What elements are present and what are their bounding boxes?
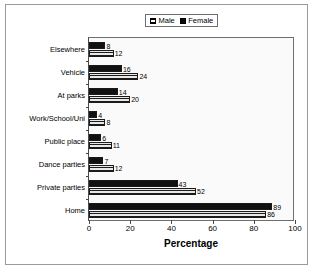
- y-axis-tick: [86, 84, 89, 85]
- bar-value-female: 89: [273, 203, 281, 210]
- chart-category-row: Work/School/Uni48: [89, 107, 293, 130]
- bar-male: 12: [89, 165, 114, 172]
- bar-female: 7: [89, 157, 103, 164]
- bar-male: 12: [89, 50, 114, 57]
- bar-value-male: 11: [113, 142, 120, 149]
- legend-label-male: Male: [159, 17, 175, 25]
- legend-item-male: Male: [150, 17, 175, 25]
- bar-female: 89: [89, 203, 272, 210]
- bar-female: 43: [89, 180, 178, 187]
- bar-male: 24: [89, 73, 138, 80]
- bar-female: 16: [89, 65, 122, 72]
- x-axis-tick-label: 20: [126, 225, 135, 233]
- bar-value-male: 8: [106, 119, 110, 126]
- chart-category-row: Dance parties712: [89, 153, 293, 176]
- bar-male: 20: [89, 96, 130, 103]
- bar-value-female: 7: [104, 157, 108, 164]
- legend-label-female: Female: [188, 17, 213, 25]
- bar-value-female: 8: [106, 42, 110, 49]
- bar-male: 8: [89, 119, 105, 126]
- chart-category-row: Private parties4352: [89, 176, 293, 199]
- chart-category-row: Home8986: [89, 199, 293, 222]
- bar-female: 8: [89, 42, 105, 49]
- category-label: Dance parties: [39, 161, 85, 169]
- chart-category-row: Elsewhere812: [89, 38, 293, 61]
- category-label: Public place: [45, 138, 85, 146]
- x-axis-tick-label: 100: [288, 225, 301, 233]
- x-axis-title: Percentage: [88, 239, 294, 249]
- bar-male: 52: [89, 188, 196, 195]
- legend-swatch-female-icon: [180, 18, 186, 24]
- bar-female: 4: [89, 111, 97, 118]
- chart-category-row: At parks1420: [89, 84, 293, 107]
- bar-female: 14: [89, 88, 118, 95]
- bar-value-female: 6: [102, 134, 106, 141]
- category-label: Vehicle: [61, 69, 85, 77]
- chart-legend: Male Female: [145, 14, 218, 27]
- y-axis-tick: [86, 176, 89, 177]
- x-axis-tick-label: 80: [249, 225, 258, 233]
- legend-item-female: Female: [180, 17, 214, 25]
- chart-category-row: Vehicle1624: [89, 61, 293, 84]
- bar-value-male: 86: [267, 211, 275, 218]
- x-axis-tick-label: 40: [167, 225, 176, 233]
- y-axis-tick: [86, 153, 89, 154]
- y-axis-tick: [86, 107, 89, 108]
- bar-value-male: 52: [197, 188, 205, 195]
- bar-value-male: 12: [115, 50, 123, 57]
- x-axis-tick-label: 0: [87, 225, 91, 233]
- plot-inner: Elsewhere812Vehicle1624At parks1420Work/…: [89, 38, 293, 220]
- bar-female: 6: [89, 134, 101, 141]
- category-label: Home: [65, 207, 85, 215]
- bar-value-female: 43: [179, 180, 187, 187]
- bar-value-male: 24: [139, 73, 147, 80]
- y-axis-tick: [86, 61, 89, 62]
- bar-male: 86: [89, 211, 266, 218]
- y-axis-tick: [86, 199, 89, 200]
- bar-value-male: 12: [115, 165, 123, 172]
- chart-frame: Male Female Elsewhere812Vehicle1624At pa…: [5, 4, 308, 265]
- bar-value-female: 4: [98, 111, 102, 118]
- y-axis-tick: [86, 130, 89, 131]
- bar-value-female: 14: [119, 88, 127, 95]
- bar-value-female: 16: [123, 65, 131, 72]
- x-axis-tick-label: 60: [208, 225, 217, 233]
- plot-area: Elsewhere812Vehicle1624At parks1420Work/…: [88, 37, 294, 221]
- bar-value-male: 20: [131, 96, 139, 103]
- category-label: At parks: [57, 92, 85, 100]
- legend-swatch-male-icon: [150, 18, 156, 24]
- category-label: Private parties: [37, 184, 85, 192]
- bar-male: 11: [89, 142, 112, 149]
- chart-category-row: Public place611: [89, 130, 293, 153]
- category-label: Elsewhere: [50, 46, 85, 54]
- category-label: Work/School/Uni: [29, 115, 85, 123]
